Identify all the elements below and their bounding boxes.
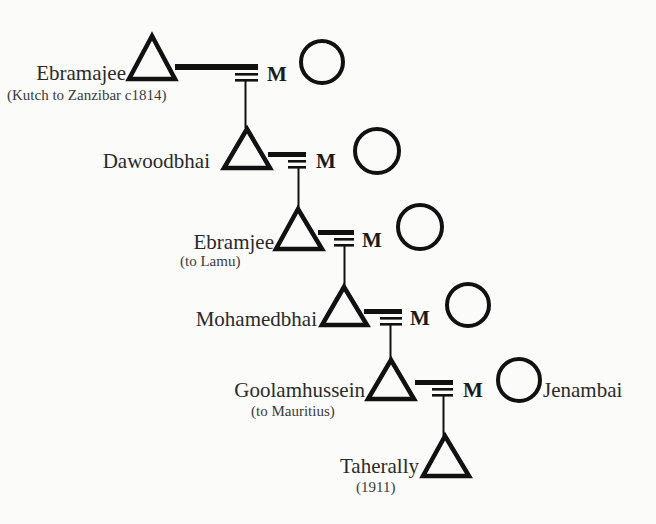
generation-2: M Dawoodbhai [103, 129, 399, 208]
marriage-label: M [267, 62, 287, 86]
marriage-bar [268, 152, 306, 157]
male-triangle-icon [322, 287, 367, 325]
person-name: Mohamedbhai [196, 307, 317, 331]
person-note: (Kutch to Zanzibar c1814) [7, 87, 167, 104]
male-triangle-icon [129, 36, 175, 79]
person-name: Goolamhussein [234, 378, 365, 402]
person-name: Ebramajee [36, 61, 126, 85]
person-note: (1911) [356, 479, 395, 496]
marriage-line-1 [432, 388, 453, 391]
female-circle-icon [398, 205, 442, 249]
marriage-bar [318, 230, 354, 235]
marriage-line-2 [288, 166, 306, 169]
marriage-label: M [362, 228, 382, 252]
male-triangle-icon [224, 129, 270, 168]
spouse-name: Jenambai [543, 378, 622, 402]
marriage-label: M [463, 378, 483, 402]
pedigree-canvas: M Ebramajee (Kutch to Zanzibar c1814) M … [0, 0, 656, 524]
generation-6: Taherally (1911) [340, 436, 469, 496]
person-name: Taherally [340, 454, 419, 478]
person-name: Dawoodbhai [103, 149, 210, 173]
marriage-label: M [316, 149, 336, 173]
male-triangle-icon [423, 436, 469, 476]
male-triangle-icon [368, 360, 414, 399]
marriage-line-1 [380, 317, 402, 320]
generation-1: M Ebramajee (Kutch to Zanzibar c1814) [7, 36, 343, 128]
person-name: Ebramjee [194, 230, 274, 254]
marriage-line-1 [288, 160, 306, 163]
marriage-line-1 [334, 238, 354, 241]
marriage-bar [415, 380, 453, 385]
marriage-bar [175, 64, 258, 70]
pedigree-diagram: M Ebramajee (Kutch to Zanzibar c1814) M … [0, 0, 656, 524]
female-circle-icon [301, 41, 343, 83]
female-circle-icon [498, 359, 540, 401]
marriage-bar [364, 309, 402, 314]
generation-4: M Mohamedbhai [196, 284, 489, 360]
marriage-line-1 [235, 73, 258, 76]
female-circle-icon [447, 284, 489, 326]
person-note: (to Mauritius) [251, 403, 335, 420]
generation-3: M Ebramjee (to Lamu) [180, 205, 442, 286]
generation-5: M Jenambai Goolamhussein (to Mauritius) [234, 359, 622, 436]
female-circle-icon [355, 129, 399, 173]
male-triangle-icon [276, 209, 322, 249]
person-note: (to Lamu) [180, 253, 240, 270]
marriage-label: M [410, 306, 430, 330]
